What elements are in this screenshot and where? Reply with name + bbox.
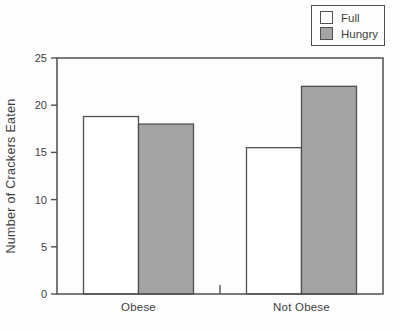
legend-label-full: Full <box>341 12 360 24</box>
x-category-label-obese: Obese <box>121 301 156 313</box>
y-axis-title: Number of Crackers Eaten <box>4 98 18 253</box>
bar-not-obese-hungry <box>302 86 357 294</box>
legend: Full Hungry <box>311 5 385 46</box>
legend-item-full: Full <box>320 11 384 24</box>
y-tick-label: 0 <box>41 288 47 300</box>
y-tick-label: 10 <box>35 194 47 206</box>
y-tick-label: 15 <box>35 146 47 158</box>
x-category-label-not-obese: Not Obese <box>273 301 330 313</box>
legend-swatch-hungry <box>320 27 333 40</box>
y-tick-label: 5 <box>41 241 47 253</box>
legend-label-hungry: Hungry <box>341 28 378 40</box>
figure: 0510152025 Number of Crackers Eaten Obes… <box>0 0 400 330</box>
bar-not-obese-full <box>247 148 302 294</box>
bar-chart: 0510152025 <box>0 0 400 330</box>
y-tick-label: 25 <box>35 52 47 64</box>
legend-swatch-full <box>320 11 333 24</box>
bar-obese-hungry <box>139 124 194 294</box>
legend-item-hungry: Hungry <box>320 27 384 40</box>
y-tick-label: 20 <box>35 99 47 111</box>
bar-obese-full <box>84 117 139 294</box>
